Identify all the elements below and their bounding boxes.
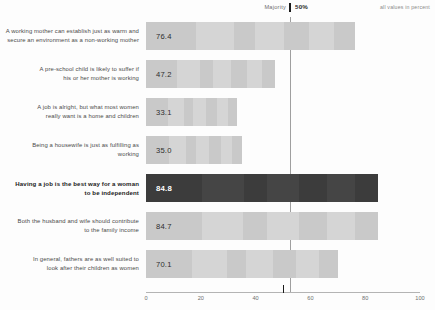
bar-row-label-line1: A pre-school child is likely to suffer i…: [40, 65, 139, 74]
x-axis-tick-label: 60: [307, 295, 313, 301]
bar-row[interactable]: A pre-school child is likely to suffer i…: [0, 55, 435, 93]
chart-header: Majority 50% all values in percent: [0, 0, 435, 17]
bar-shade-band: [196, 22, 234, 50]
bar-track: 70.1: [146, 250, 420, 278]
bar-row-label-line2: to the family income: [84, 226, 139, 235]
bar-value-label: 33.1: [156, 98, 172, 126]
bar-row[interactable]: Being a housewife is just as fulfilling …: [0, 131, 435, 169]
majority-annotation-label: Majority: [264, 4, 286, 10]
bar-row-label: Being a housewife is just as fulfilling …: [4, 131, 139, 169]
bar-shade-band: [296, 250, 319, 278]
bar[interactable]: [146, 212, 378, 240]
x-axis-tick-label: 80: [362, 295, 368, 301]
bar-chart: Majority 50% all values in percent A wor…: [0, 0, 435, 310]
bar-shade-band: [327, 212, 355, 240]
majority-axis-tick: [283, 285, 285, 293]
bar-value-label: 35.0: [156, 136, 172, 164]
majority-tick-marker: [289, 3, 291, 12]
bar-value-label: 84.8: [156, 174, 172, 202]
bar-track: 33.1: [146, 98, 420, 126]
bar-shade-band: [267, 212, 299, 240]
bar-row[interactable]: A job is alright, but what most womenrea…: [0, 93, 435, 131]
bar-shade-band: [177, 60, 200, 88]
bar-row[interactable]: Both the husband and wife should contrib…: [0, 207, 435, 245]
bar-row-label: Both the husband and wife should contrib…: [4, 207, 139, 245]
x-axis-tick-label: 20: [198, 295, 204, 301]
bar-row-label-line1: A job is alright, but what most women: [37, 103, 139, 112]
bar-track: 35.0: [146, 136, 420, 164]
bar-row-label-line2: really want is a home and children: [46, 112, 139, 121]
bar-shade-band: [221, 136, 233, 164]
units-note: all values in percent: [380, 4, 430, 10]
bar-row-label-line1: A working mother can establish just as w…: [6, 27, 139, 36]
bar[interactable]: [146, 22, 355, 50]
bar-shade-band: [213, 60, 231, 88]
bar-track: 76.4: [146, 22, 420, 50]
bar-row-label: A pre-school child is likely to suffer i…: [4, 55, 139, 93]
bar-track: 84.8: [146, 174, 420, 202]
bar-shade-band: [202, 174, 244, 202]
bar[interactable]: [146, 250, 338, 278]
bar-value-label: 84.7: [156, 212, 172, 240]
bar-shade-band: [267, 174, 300, 202]
bar-row-label-line2: working: [118, 150, 139, 159]
bar-row-label-line2: look after their children as women: [47, 264, 139, 273]
bar-track: 47.2: [146, 60, 420, 88]
bar-row[interactable]: Having a job is the best way for a woman…: [0, 169, 435, 207]
plot-area: A working mother can establish just as w…: [0, 17, 435, 293]
bar-shade-band: [309, 22, 334, 50]
x-axis: 020406080100: [0, 292, 435, 310]
bar-row-label-line1: In general, fathers are as well suited t…: [33, 255, 139, 264]
majority-percent-label: 50%: [295, 3, 308, 10]
bar-value-label: 70.1: [156, 250, 172, 278]
bar-shade-band: [169, 136, 186, 164]
bar-value-label: 76.4: [156, 22, 172, 50]
bar-row[interactable]: In general, fathers are as well suited t…: [0, 245, 435, 283]
x-axis-tick-label: 40: [252, 295, 258, 301]
bar-row-label-line1: Having a job is the best way for a woman: [15, 179, 139, 188]
bar-row-label: A working mother can establish just as w…: [4, 17, 139, 55]
bar[interactable]: [146, 174, 378, 202]
bar-shade-band: [217, 98, 228, 126]
bar-shade-band: [196, 136, 209, 164]
bar-value-label: 47.2: [156, 60, 172, 88]
bar-row-label-line1: Being a housewife is just as fulfilling …: [32, 141, 139, 150]
bar-shade-band: [202, 212, 244, 240]
bar-row-label-line1: Both the husband and wife should contrib…: [18, 217, 139, 226]
bar-row[interactable]: A working mother can establish just as w…: [0, 17, 435, 55]
bar-row-label-line2: his or her mother is working: [63, 74, 139, 83]
bar-track: 84.7: [146, 212, 420, 240]
x-axis-tick-label: 0: [144, 295, 147, 301]
bar-shade-band: [327, 174, 355, 202]
bar-shade-band: [247, 60, 263, 88]
bar-shade-band: [255, 22, 284, 50]
bar-row-label: Having a job is the best way for a woman…: [4, 169, 139, 207]
bar-row-label-line2: secure an environment as a non-working m…: [7, 36, 139, 45]
bar-row-label-line2: to be independent: [84, 188, 139, 197]
bar-row-label: A job is alright, but what most womenrea…: [4, 93, 139, 131]
bar-shade-band: [193, 98, 206, 126]
bar-shade-band: [192, 250, 227, 278]
x-axis-tick-label: 100: [415, 295, 424, 301]
bar-shade-band: [246, 250, 273, 278]
bar-row-label: In general, fathers are as well suited t…: [4, 245, 139, 283]
